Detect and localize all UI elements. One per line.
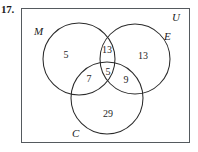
region-value-c-only: 29	[103, 109, 113, 119]
region-value-m-and-e: 13	[102, 45, 112, 55]
circle-E	[100, 24, 170, 94]
label-set-C: C	[72, 128, 79, 139]
region-value-m-and-c: 7	[87, 74, 92, 84]
region-value-m-only: 5	[64, 50, 69, 60]
region-value-m-and-e-and-c: 5	[106, 67, 111, 77]
region-value-e-and-c: 9	[124, 75, 129, 85]
circle-M	[43, 23, 115, 95]
venn-diagram-figure: 17. U M E C 5 13 13 7 5 9 29	[0, 0, 198, 152]
region-value-e-only: 13	[138, 51, 148, 61]
label-set-E: E	[164, 31, 171, 42]
label-set-M: M	[34, 26, 43, 37]
venn-circles-svg	[0, 0, 198, 152]
label-universal-set: U	[172, 12, 180, 23]
